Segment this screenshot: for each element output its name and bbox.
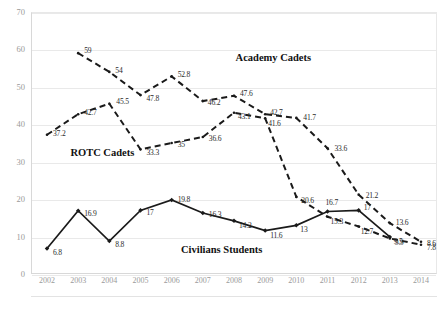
data-point-label: 35 xyxy=(178,140,185,149)
data-point-label: 17 xyxy=(364,203,371,212)
data-point-label: 42.7 xyxy=(84,108,97,117)
data-point-marker xyxy=(264,113,267,116)
data-point-label: 14.2 xyxy=(239,221,252,230)
data-point-marker xyxy=(77,113,80,116)
data-point-label: 9.9 xyxy=(395,238,404,247)
data-point-label: 16.7 xyxy=(326,198,339,207)
data-point-label: 8.6 xyxy=(427,239,436,248)
data-point-label: 43.1 xyxy=(238,112,251,121)
data-point-marker xyxy=(420,244,423,247)
data-point-marker xyxy=(263,228,268,233)
data-point-marker xyxy=(233,111,236,114)
data-point-label: 16.3 xyxy=(209,210,222,219)
data-point-marker xyxy=(108,102,111,105)
data-point-label: 13 xyxy=(300,225,307,234)
data-point-label: 36.6 xyxy=(209,134,222,143)
series-annotation: ROTC Cadets xyxy=(70,147,134,158)
series-annotation: Academy Cadets xyxy=(236,52,312,63)
data-point-marker xyxy=(389,222,392,225)
data-point-label: 54 xyxy=(115,66,122,75)
data-point-label: 59 xyxy=(84,46,91,55)
data-point-label: 46.2 xyxy=(208,98,221,107)
data-point-label: 33.3 xyxy=(147,148,160,157)
data-point-marker xyxy=(202,136,205,139)
data-point-label: 47.6 xyxy=(240,89,253,98)
data-point-marker xyxy=(170,75,173,78)
series-layer xyxy=(0,0,446,320)
data-point-marker xyxy=(233,95,236,98)
data-point-label: 15.3 xyxy=(331,217,344,226)
data-point-label: 52.8 xyxy=(178,70,191,79)
data-point-label: 19.8 xyxy=(178,195,191,204)
data-point-label: 16.9 xyxy=(84,209,97,218)
data-point-label: 42.7 xyxy=(270,108,283,117)
data-point-marker xyxy=(326,147,329,150)
data-point-marker xyxy=(326,215,329,218)
line-chart: 010203040506070 200220032004200520062007… xyxy=(0,0,446,320)
series-line-rotc-cadets xyxy=(47,104,421,245)
data-point-label: 41.6 xyxy=(268,119,281,128)
data-point-marker xyxy=(108,71,111,74)
data-point-marker xyxy=(295,196,298,199)
data-point-label: 41.7 xyxy=(303,113,316,122)
data-point-label: 33.6 xyxy=(335,144,348,153)
data-point-marker xyxy=(232,219,237,224)
data-point-label: 6.8 xyxy=(53,248,62,257)
data-point-label: 21.2 xyxy=(366,191,379,200)
series-annotation: Civilians Students xyxy=(181,244,262,255)
data-point-label: 17 xyxy=(147,208,154,217)
data-point-marker xyxy=(295,117,298,120)
data-point-label: 47.8 xyxy=(147,94,160,103)
data-point-marker xyxy=(46,133,49,136)
data-point-label: 37.2 xyxy=(53,129,66,138)
data-point-marker xyxy=(139,94,142,97)
data-point-marker xyxy=(264,117,267,120)
data-point-marker xyxy=(77,52,80,55)
data-point-label: 45.5 xyxy=(116,97,129,106)
data-point-label: 11.6 xyxy=(270,231,282,240)
data-point-marker xyxy=(357,225,360,228)
data-point-label: 8.8 xyxy=(115,240,124,249)
data-point-label: 12.7 xyxy=(361,227,374,236)
data-point-label: 20.6 xyxy=(301,196,314,205)
data-point-label: 13.6 xyxy=(396,218,409,227)
data-point-marker xyxy=(357,193,360,196)
data-point-marker xyxy=(139,148,142,151)
data-point-marker xyxy=(202,100,205,103)
data-point-marker xyxy=(170,142,173,145)
data-point-marker xyxy=(420,241,423,244)
